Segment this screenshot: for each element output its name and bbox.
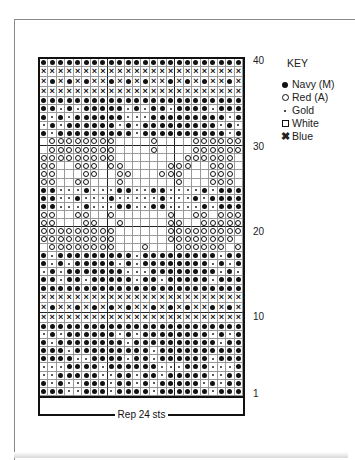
chart-cell [201,87,209,97]
chart-cell [40,105,48,113]
chart-cell [141,195,149,203]
chart-cell [218,323,226,331]
chart-cell [226,227,234,235]
chart-cell [57,146,65,154]
chart-cell [57,130,65,138]
chart-cell [150,138,158,146]
chart-cell [108,244,116,252]
chart-cell [209,130,217,138]
chart-cell [74,372,82,380]
chart-cell [184,372,192,380]
chart-cell [184,130,192,138]
chart-cell [65,187,73,195]
chart-cell [65,372,73,380]
chart-cell [209,244,217,252]
chart-cell [167,130,175,138]
chart-cell [48,105,56,113]
chart-cell [226,347,234,355]
chart-cell [158,138,166,146]
chart-cell [218,268,226,276]
chart-cell [235,211,243,219]
chart-cell [158,87,166,97]
chart-cell [158,211,166,219]
chart-cell [99,187,107,195]
chart-cell [184,293,192,303]
chart-cell [141,323,149,331]
empty-square-icon [281,120,289,128]
chart-cell [82,276,90,284]
chart-cell [133,355,141,363]
chart-cell [108,355,116,363]
chart-cell [158,323,166,331]
chart-cell [141,380,149,388]
chart-cell [108,260,116,268]
chart-cell [235,154,243,162]
chart-cell [125,105,133,113]
chart-cell [175,211,183,219]
chart-cell [158,236,166,244]
chart-cell [158,170,166,178]
chart-cell [108,347,116,355]
chart-cell [40,227,48,235]
chart-cell [116,388,124,396]
chart-cell [184,211,192,219]
chart-cell [184,162,192,170]
chart-cell [91,388,99,396]
chart-cell [40,260,48,268]
chart-cell [218,105,226,113]
chart-cell [48,227,56,235]
row-number-40: 40 [253,56,264,66]
chart-cell [82,347,90,355]
chart-cell [40,97,48,105]
chart-cell [57,347,65,355]
chart-cell [108,105,116,113]
cross-x-icon: ✖ [281,133,289,141]
chart-cell [158,388,166,396]
chart-cell [74,388,82,396]
chart-cell [74,236,82,244]
chart-cell [57,97,65,105]
chart-cell [175,323,183,331]
chart-cell [48,331,56,339]
chart-cell [192,87,200,97]
chart-cell [82,388,90,396]
chart-cell [57,203,65,211]
chart-cell [150,363,158,371]
chart-cell [108,113,116,121]
chart-cell [57,219,65,227]
chart-cell [141,236,149,244]
chart-cell [184,339,192,347]
chart-cell [218,97,226,105]
chart-cell [99,363,107,371]
chart-cell [74,227,82,235]
chart-cell [218,380,226,388]
chart-cell [141,203,149,211]
chart-cell [167,331,175,339]
chart-cell [48,67,56,77]
chart-cell [133,105,141,113]
chart-cell [40,252,48,260]
chart-cell [141,146,149,154]
chart-cell [150,113,158,121]
chart-cell [226,170,234,178]
chart-cell [150,154,158,162]
chart-cell [150,276,158,284]
chart-cell [116,276,124,284]
chart-cell [125,170,133,178]
chart-cell [91,187,99,195]
chart-cell [48,187,56,195]
chart-cell [74,105,82,113]
chart-cell [235,372,243,380]
chart-cell [218,339,226,347]
chart-cell [184,179,192,187]
chart-cell [226,388,234,396]
chart-cell [74,162,82,170]
chart-cell [226,146,234,154]
chart-cell [150,313,158,323]
chart-cell [226,122,234,130]
chart-cell [192,170,200,178]
chart-cell [125,146,133,154]
chart-cell [74,211,82,219]
chart-cell [48,313,56,323]
chart-cell [133,146,141,154]
